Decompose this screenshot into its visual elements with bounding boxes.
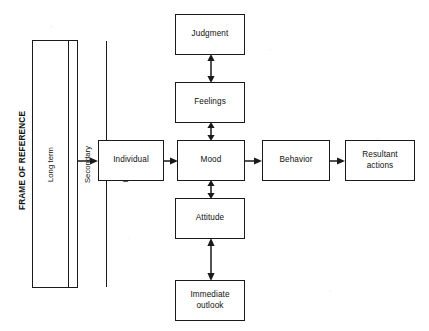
box-immediate-outlook[interactable]: Immediate outlook [175,280,245,321]
box-attitude-label: Attitude [196,213,225,223]
box-judgment-label: Judgment [192,29,229,39]
frame-column-long-term[interactable]: Long term [33,41,68,287]
connector-judgment-feelings [202,54,220,83]
connector-frame-to-individual [78,152,100,170]
connector-individual-to-mood [164,152,179,170]
connector-mood-attitude [202,180,220,199]
diagram-canvas: FRAME OF REFERENCE Long term Secondary I… [0,0,429,331]
connector-attitude-immediate-outlook [202,238,220,281]
box-individual[interactable]: Individual [98,140,164,181]
box-attitude[interactable]: Attitude [175,198,245,239]
frame-column-long-term-label: Long term [46,146,55,181]
box-mood-label: Mood [201,155,222,165]
box-judgment[interactable]: Judgment [175,14,245,55]
frame-of-reference-label: FRAME OF REFERENCE [18,101,27,221]
box-resultant-actions[interactable]: Resultant actions [345,140,415,181]
connector-mood-to-behavior [245,152,264,170]
box-behavior-label: Behavior [279,155,312,165]
frame-of-reference-group: Long term Secondary Immediate [32,40,78,288]
connector-feelings-mood [202,122,220,141]
box-feelings[interactable]: Feelings [175,82,245,123]
box-immediate-outlook-label: Immediate outlook [190,290,229,311]
box-resultant-actions-label: Resultant actions [362,150,398,171]
box-individual-label: Individual [113,155,149,165]
box-mood[interactable]: Mood [177,140,245,181]
box-behavior[interactable]: Behavior [262,140,330,181]
connector-behavior-to-resultant-actions [330,152,347,170]
box-feelings-label: Feelings [194,97,226,107]
